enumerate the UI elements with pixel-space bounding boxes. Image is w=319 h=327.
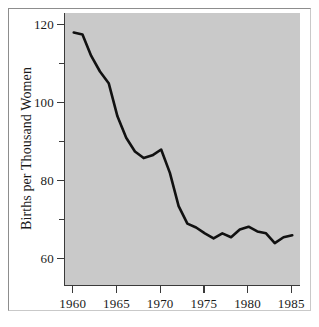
x-tick-mark [291, 286, 292, 293]
x-tick-label: 1980 [234, 295, 261, 312]
x-tick-mark [203, 286, 204, 293]
y-tick-mark [57, 180, 64, 181]
fertility-rate-chart-figure: Births per Thousand Women 1201008060 196… [0, 0, 319, 327]
x-tick-label: 1970 [147, 295, 174, 312]
x-tick-label: 1985 [278, 295, 305, 312]
x-tick-mark [116, 286, 117, 293]
y-tick-label: 60 [41, 250, 54, 268]
y-axis-ticks: 1201008060 [0, 0, 64, 299]
x-tick-mark [247, 286, 248, 293]
y-tick-mark [57, 102, 64, 103]
x-tick-label: 1975 [190, 295, 217, 312]
plot-area [64, 13, 300, 286]
y-tick-mark [57, 24, 64, 25]
y-tick-label: 100 [34, 94, 54, 112]
y-tick-mark [57, 258, 64, 259]
x-axis-ticks: 196019651970197519801985 [64, 286, 304, 326]
x-tick-mark [72, 286, 73, 293]
y-tick-label: 120 [34, 16, 54, 34]
data-line-svg [65, 13, 301, 286]
x-tick-label: 1965 [103, 295, 130, 312]
birth-rate-line [74, 33, 293, 244]
x-tick-mark [160, 286, 161, 293]
y-tick-label: 80 [41, 172, 54, 190]
x-tick-label: 1960 [59, 295, 86, 312]
